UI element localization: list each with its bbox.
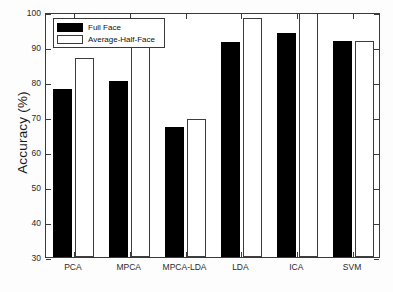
y-tick-label: 50	[7, 183, 41, 193]
y-tick-mark-right	[374, 154, 379, 155]
y-tick-mark	[46, 84, 51, 85]
x-tick-mark	[241, 252, 242, 257]
y-tick-mark-right	[374, 84, 379, 85]
x-tick-mark-top	[241, 14, 242, 19]
bar-mpca-lda-average-half-face	[187, 119, 206, 257]
y-tick-mark-right	[374, 224, 379, 225]
x-tick-mark-top	[186, 14, 187, 19]
bar-pca-full-face	[53, 89, 72, 257]
y-tick-mark-right	[374, 14, 379, 15]
bar-pca-average-half-face	[75, 58, 94, 257]
bar-svm-average-half-face	[355, 41, 374, 257]
y-tick-mark-right	[374, 189, 379, 190]
bar-chart-figure: Accuracy (%) Full Face Average-Half-Face…	[0, 0, 393, 292]
y-tick-label: 100	[7, 8, 41, 18]
y-tick-mark	[46, 49, 51, 50]
x-tick-mark	[74, 252, 75, 257]
legend-item-average-half-face: Average-Half-Face	[57, 33, 161, 45]
y-tick-mark	[46, 119, 51, 120]
legend-item-full-face: Full Face	[57, 21, 161, 33]
bar-mpca-full-face	[109, 81, 128, 257]
bar-mpca-average-half-face	[131, 33, 150, 257]
legend-swatch-full-face-icon	[57, 23, 83, 32]
legend-label-full-face: Full Face	[88, 23, 121, 32]
y-tick-label: 70	[7, 113, 41, 123]
legend-swatch-average-half-face-icon	[57, 35, 83, 44]
plot-area	[45, 13, 380, 258]
legend-label-average-half-face: Average-Half-Face	[88, 35, 155, 44]
x-tick-mark	[186, 252, 187, 257]
y-tick-mark	[46, 14, 51, 15]
y-tick-label: 40	[7, 218, 41, 228]
bar-ica-full-face	[277, 33, 296, 257]
y-tick-mark	[46, 154, 51, 155]
x-tick-mark-top	[353, 14, 354, 19]
bar-svm-full-face	[333, 41, 352, 257]
y-tick-label: 30	[7, 253, 41, 263]
y-tick-mark-right	[374, 259, 379, 260]
x-tick-label: SVM	[317, 262, 387, 272]
y-tick-mark	[46, 224, 51, 225]
y-tick-label: 60	[7, 148, 41, 158]
x-tick-mark	[353, 252, 354, 257]
y-tick-mark	[46, 189, 51, 190]
y-tick-mark-right	[374, 49, 379, 50]
bar-ica-average-half-face	[299, 14, 318, 257]
plot-clip-region	[46, 14, 379, 257]
bar-lda-average-half-face	[243, 18, 262, 257]
y-tick-mark	[46, 259, 51, 260]
chart-legend: Full Face Average-Half-Face	[53, 18, 165, 48]
x-tick-mark	[297, 252, 298, 257]
x-tick-mark-top	[297, 14, 298, 19]
y-tick-label: 80	[7, 78, 41, 88]
y-tick-mark-right	[374, 119, 379, 120]
bar-lda-full-face	[221, 42, 240, 257]
bar-mpca-lda-full-face	[165, 127, 184, 257]
y-tick-label: 90	[7, 43, 41, 53]
x-tick-mark	[130, 252, 131, 257]
